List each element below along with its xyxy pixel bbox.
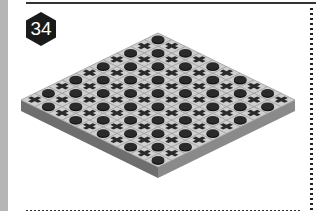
circle-piece-top	[42, 102, 55, 110]
circle-piece-top	[152, 129, 165, 137]
circle-piece-top	[97, 76, 110, 84]
circle-piece-top	[152, 76, 165, 84]
circle-piece-top	[124, 129, 137, 137]
circle-piece-top	[206, 129, 219, 137]
circle-piece-top	[97, 62, 110, 70]
circle-piece-top	[124, 116, 137, 124]
circle-piece-top	[179, 89, 192, 97]
circle-piece-top	[234, 102, 247, 110]
circle-piece-top	[152, 116, 165, 124]
circle-piece-top	[152, 89, 165, 97]
circle-piece-top	[261, 102, 274, 110]
circle-piece-top	[42, 89, 55, 97]
circle-piece-top	[234, 89, 247, 97]
circle-piece-top	[69, 76, 82, 84]
circle-piece-top	[179, 102, 192, 110]
circle-piece-top	[179, 116, 192, 124]
circle-piece-top	[124, 102, 137, 110]
circle-piece-top	[97, 89, 110, 97]
circle-piece-top	[152, 49, 165, 57]
circle-piece-top	[206, 102, 219, 110]
circle-piece-top	[179, 143, 192, 151]
circle-piece-top	[69, 89, 82, 97]
circle-piece-top	[152, 102, 165, 110]
circle-piece-top	[124, 49, 137, 57]
circle-piece-top	[97, 102, 110, 110]
circle-piece-top	[206, 89, 219, 97]
circle-piece-top	[152, 35, 165, 43]
circle-piece-top	[206, 116, 219, 124]
circle-piece-top	[152, 62, 165, 70]
circle-piece-top	[97, 129, 110, 137]
circle-piece-top	[179, 129, 192, 137]
circle-piece-top	[206, 62, 219, 70]
circle-piece-top	[234, 116, 247, 124]
circle-piece-top	[179, 62, 192, 70]
circle-piece-top	[152, 143, 165, 151]
circle-piece-top	[69, 116, 82, 124]
circle-piece-top	[124, 143, 137, 151]
circle-piece-top	[179, 76, 192, 84]
circle-piece-top	[124, 89, 137, 97]
circle-piece-top	[152, 156, 165, 164]
circle-piece-top	[206, 76, 219, 84]
circle-piece-top	[234, 76, 247, 84]
isometric-game-board	[0, 0, 316, 211]
circle-piece-top	[179, 49, 192, 57]
circle-piece-top	[97, 116, 110, 124]
circle-piece-top	[124, 62, 137, 70]
circle-piece-top	[69, 102, 82, 110]
circle-piece-top	[124, 76, 137, 84]
circle-piece-top	[261, 89, 274, 97]
